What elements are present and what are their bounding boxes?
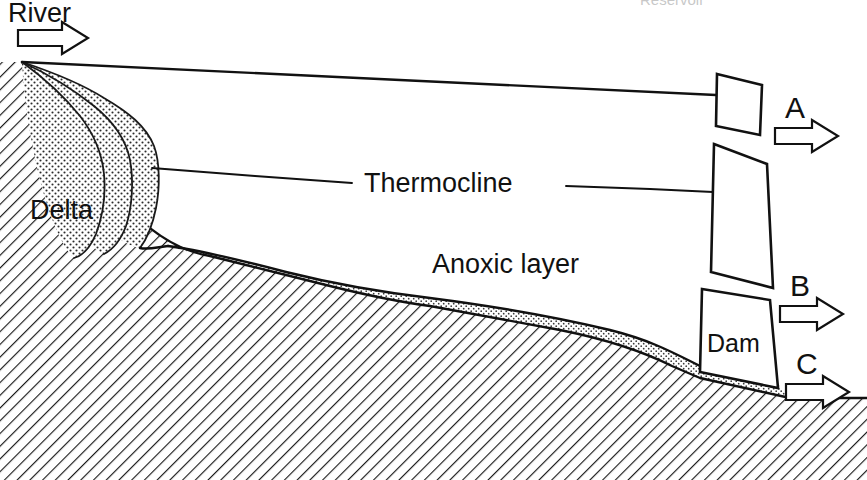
water-surface-line — [22, 62, 716, 95]
dam-gate-top — [716, 74, 762, 135]
diagram-canvas: River Delta Thermocline Anoxic layer Dam… — [0, 0, 867, 480]
river-label: River — [8, 0, 71, 28]
reservoir-diagram-figure: River Delta Thermocline Anoxic layer Dam… — [0, 0, 867, 480]
anoxic-layer-label: Anoxic layer — [432, 249, 579, 279]
thermocline-label: Thermocline — [364, 168, 513, 198]
outflow-arrow-a — [775, 120, 838, 152]
dam-label: Dam — [707, 329, 760, 357]
outlet-label-c: C — [796, 347, 818, 380]
outlet-label-a: A — [785, 91, 805, 124]
dam-gate-middle — [711, 144, 773, 288]
delta-label: Delta — [30, 195, 94, 225]
outflow-arrow-b — [780, 298, 843, 330]
clipped-top-caption: Reservoir — [640, 0, 704, 8]
outlet-label-b: B — [790, 269, 810, 302]
